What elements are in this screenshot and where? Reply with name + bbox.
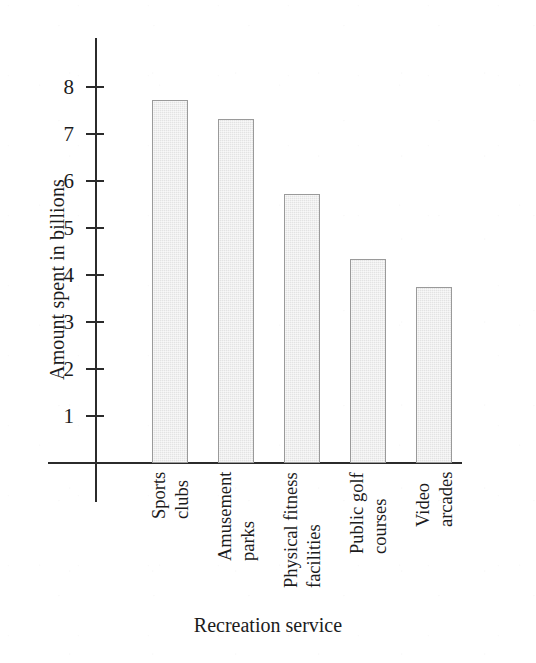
x-axis-category-label-line: Video — [412, 472, 435, 527]
plot-area — [0, 0, 536, 663]
x-axis-category-label-line: parks — [237, 472, 260, 561]
x-axis-category-label-line: courses — [369, 472, 392, 554]
x-axis-category-label-line: Public golf — [346, 472, 369, 554]
x-axis-category-label: Public golfcourses — [346, 472, 392, 554]
x-axis-category-label: Videoarcades — [412, 472, 458, 527]
bar — [284, 194, 320, 463]
x-axis-category-label-line: Amusement — [214, 472, 237, 561]
x-axis-category-label-line: facilities — [303, 472, 326, 588]
x-axis-category-label-line: clubs — [171, 472, 194, 519]
bar — [416, 287, 452, 463]
bar — [350, 259, 386, 463]
bar-chart-figure: Amount spent in billions 12345678 Sports… — [0, 0, 536, 663]
x-axis-category-label: Physical fitnessfacilities — [280, 472, 326, 588]
x-axis-category-label: Amusementparks — [214, 472, 260, 561]
x-axis-category-label-line: arcades — [435, 472, 458, 527]
x-axis-category-label-line: Physical fitness — [280, 472, 303, 588]
x-axis-category-label-line: Sports — [148, 472, 171, 519]
bar — [218, 119, 254, 463]
x-axis-title: Recreation service — [0, 614, 536, 637]
bar — [152, 100, 188, 463]
x-axis-category-label: Sportsclubs — [148, 472, 194, 519]
